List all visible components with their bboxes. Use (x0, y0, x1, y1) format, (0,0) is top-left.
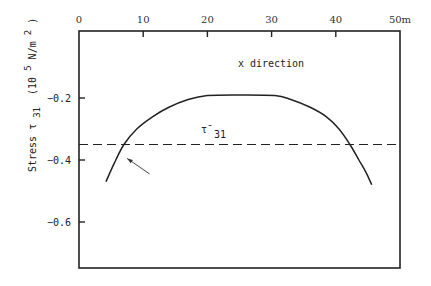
y-tick-label: −0.4 (47, 155, 71, 166)
mean-label: τ̄ 31 (201, 124, 226, 140)
y-axis-label: Stress τ 31 (10 5 N/m 2 ) (22, 18, 42, 172)
mean-label-symbol: τ̄ (201, 124, 212, 135)
arrow-head-icon (127, 158, 133, 163)
x-tick-label: 30 (265, 14, 278, 25)
ylabel-main: Stress τ (27, 124, 38, 172)
svg-text:Stress τ 31 (10: Stress τ 31 (10 5 N/m 2 ) (22, 18, 42, 172)
ylabel-unit-open: (10 (27, 77, 38, 95)
ylabel-unit-exp: 5 (23, 65, 33, 70)
x-tick-label: 40 (329, 14, 342, 25)
x-tick-label: 0 (76, 14, 82, 25)
mean-label-sub: 31 (214, 129, 226, 140)
x-tick-label: 50m (389, 14, 412, 25)
y-tick-label: −0.2 (47, 93, 71, 104)
ylabel-unit-exp2: 2 (23, 30, 33, 35)
ylabel-unit-close: ) (27, 18, 38, 24)
ylabel-sub: 31 (32, 107, 42, 118)
ylabel-unit-mid: N/m (27, 41, 38, 59)
annotation-x-direction: x direction (238, 58, 304, 69)
x-tick-label: 20 (201, 14, 214, 25)
chart: 01020304050m −0.2−0.4−0.6 x direction τ̄… (0, 0, 431, 286)
x-tick-label: 10 (137, 14, 150, 25)
y-tick-label: −0.6 (47, 217, 71, 228)
